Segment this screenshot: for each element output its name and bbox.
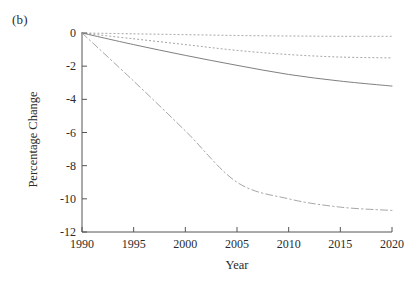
y-tick-label: -4 bbox=[30, 92, 76, 107]
x-tick-label: 2005 bbox=[225, 237, 249, 252]
data-series-line bbox=[82, 33, 392, 210]
axes-group bbox=[82, 33, 392, 232]
x-tick-label: 2020 bbox=[380, 237, 404, 252]
x-axis-label: Year bbox=[82, 258, 392, 273]
y-tick-label: -2 bbox=[30, 59, 76, 74]
x-tick-label: 1990 bbox=[70, 237, 94, 252]
series-group bbox=[82, 33, 392, 210]
data-series-line bbox=[82, 33, 392, 86]
x-tick-label: 2010 bbox=[277, 237, 301, 252]
y-tick-label: -10 bbox=[30, 191, 76, 206]
y-tick-label: -6 bbox=[30, 125, 76, 140]
y-tick-label: -8 bbox=[30, 158, 76, 173]
x-tick-label: 1995 bbox=[122, 237, 146, 252]
data-series-line bbox=[82, 33, 392, 58]
data-series-line bbox=[82, 33, 392, 36]
figure-panel-b: (b) Percentage Change Year 0-2-4-6-8-10-… bbox=[0, 0, 418, 281]
panel-label: (b) bbox=[12, 12, 28, 28]
y-tick-label: 0 bbox=[30, 26, 76, 41]
x-tick-label: 2000 bbox=[173, 237, 197, 252]
x-tick-label: 2015 bbox=[328, 237, 352, 252]
